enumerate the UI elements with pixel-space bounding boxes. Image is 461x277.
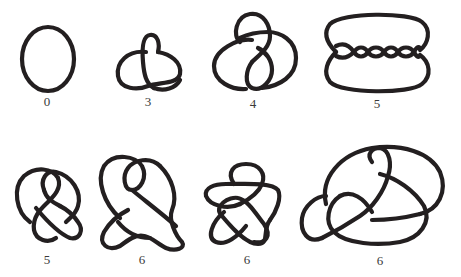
knot-6-c xyxy=(302,147,443,244)
knot-five-twist xyxy=(326,15,428,92)
label-figure-eight: 4 xyxy=(250,97,257,110)
knot-trefoil xyxy=(118,35,180,90)
knot-figure-eight xyxy=(214,14,296,89)
knot-6-b xyxy=(206,164,280,244)
label-knot-6-b: 6 xyxy=(244,253,251,266)
label-knot-5: 5 xyxy=(44,253,51,266)
knot-table-diagram xyxy=(0,0,461,277)
label-knot-6-c: 6 xyxy=(377,254,384,267)
knot-6-a xyxy=(101,157,183,250)
knot-unknot xyxy=(22,27,74,91)
knot-5-two-bridge xyxy=(17,169,81,240)
label-unknot: 0 xyxy=(44,95,51,108)
label-knot-6-a: 6 xyxy=(139,253,146,266)
label-five-twist: 5 xyxy=(374,97,381,110)
label-trefoil: 3 xyxy=(145,95,152,108)
